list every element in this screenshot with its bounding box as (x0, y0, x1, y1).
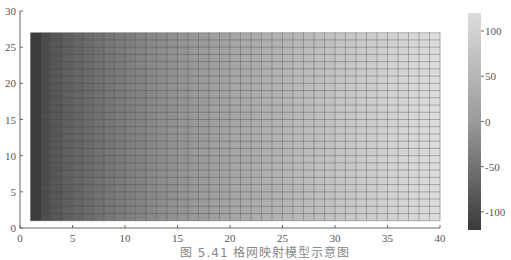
colorbar-gradient (468, 13, 481, 230)
colorbar-ticks: 100500-50-100 (481, 25, 506, 218)
x-tick-label: 5 (70, 232, 76, 244)
x-tick-label: 40 (435, 232, 447, 244)
figure-caption: 图 5.41 格网映射模型示意图 (180, 243, 350, 260)
x-tick-label: 10 (120, 232, 132, 244)
x-tick-label: 0 (17, 232, 23, 244)
y-tick-label: 0 (11, 222, 17, 234)
colorbar-tick-label: 100 (485, 25, 502, 37)
colorbar-tick-label: 50 (485, 70, 497, 82)
y-tick-label: 15 (5, 114, 17, 126)
colorbar-tick-label: 0 (485, 116, 491, 128)
y-tick-label: 30 (5, 5, 17, 17)
x-tick-label: 35 (382, 232, 394, 244)
colorbar-tick-label: -50 (485, 161, 500, 173)
y-tick-label: 25 (5, 41, 17, 53)
y-tick-label: 10 (5, 150, 17, 162)
colorbar-tick-label: -100 (485, 206, 506, 218)
y-tick-label: 20 (5, 77, 17, 89)
colorbar (468, 13, 481, 230)
y-tick-label: 5 (11, 186, 17, 198)
